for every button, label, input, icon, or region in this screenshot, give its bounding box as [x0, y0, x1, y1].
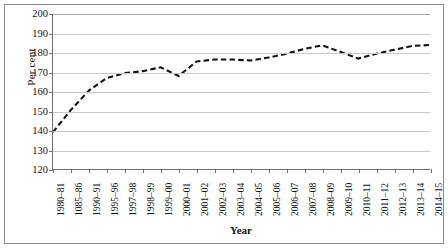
x-tick-label: 2000–01	[182, 183, 192, 216]
x-tick-label: 1990–91	[92, 183, 102, 216]
x-tick-mark	[431, 169, 432, 173]
x-tick-label: 2013–14	[416, 183, 426, 216]
y-tick-mark	[49, 112, 53, 113]
gridline	[53, 92, 430, 93]
gridline	[53, 151, 430, 152]
x-tick-label: 2011–12	[380, 183, 390, 216]
x-tick-label: 2005–06	[272, 183, 282, 216]
x-tick-label: 2006–07	[290, 183, 300, 216]
gridline	[53, 34, 430, 35]
y-tick-mark	[49, 14, 53, 15]
x-tick-label: 1997–98	[128, 183, 138, 216]
gridline	[53, 131, 430, 132]
x-tick-label: 1998–99	[146, 183, 156, 216]
y-tick-label: 180	[22, 48, 48, 58]
plot-area	[52, 14, 430, 170]
chart-figure: Per cent 200190180170160150140130120 198…	[0, 0, 448, 248]
x-tick-label: 2003–04	[236, 183, 246, 216]
x-tick-label: 2007–08	[308, 183, 318, 216]
gridline	[53, 53, 430, 54]
x-tick-label: 2004–05	[254, 183, 264, 216]
x-tick-label: 2002–03	[218, 183, 228, 216]
x-tick-label: 2008–09	[326, 183, 336, 216]
y-axis-tick-labels: 200190180170160150140130120	[22, 14, 48, 170]
y-tick-label: 140	[22, 126, 48, 136]
x-tick-label: 1085–86	[74, 183, 84, 216]
y-tick-label: 130	[22, 146, 48, 156]
y-tick-label: 150	[22, 107, 48, 117]
y-tick-mark	[49, 53, 53, 54]
y-tick-mark	[49, 73, 53, 74]
x-axis-tick-labels: 1980–811085–861990–911995–961997–981998–…	[52, 172, 430, 222]
x-tick-label: 1980–81	[56, 183, 66, 216]
y-tick-mark	[49, 151, 53, 152]
x-axis-title: Year	[52, 224, 430, 236]
x-tick-label: 2012–13	[398, 183, 408, 216]
gridline	[53, 73, 430, 74]
y-tick-label: 160	[22, 87, 48, 97]
x-tick-label: 1999–00	[164, 183, 174, 216]
y-tick-mark	[49, 92, 53, 93]
gridline	[53, 112, 430, 113]
gridline	[53, 14, 430, 15]
y-tick-mark	[49, 34, 53, 35]
x-tick-label: 2010–11	[362, 183, 372, 216]
series-line-per-cent	[53, 45, 430, 132]
y-tick-label: 120	[22, 165, 48, 175]
y-tick-label: 200	[22, 9, 48, 19]
y-tick-label: 170	[22, 68, 48, 78]
x-tick-label: 2014–15	[434, 183, 444, 216]
x-tick-label: 2009–10	[344, 183, 354, 216]
y-tick-label: 190	[22, 29, 48, 39]
y-tick-mark	[49, 131, 53, 132]
x-tick-label: 1995–96	[110, 183, 120, 216]
x-tick-label: 2001–02	[200, 183, 210, 216]
